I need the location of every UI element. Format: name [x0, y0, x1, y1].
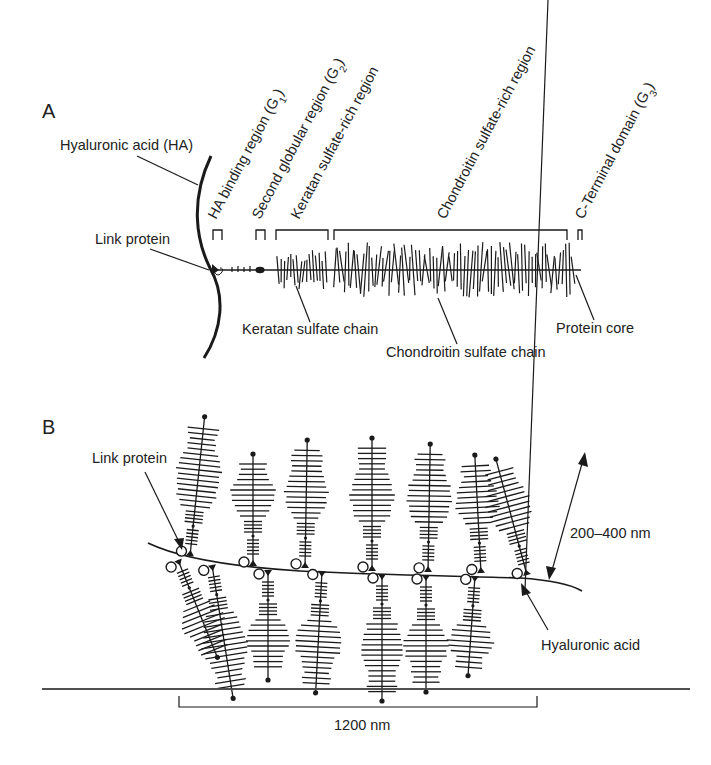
- chondroitin-chain: [399, 256, 401, 293]
- chondroitin-chain: [487, 249, 488, 292]
- chondroitin-chain: [528, 251, 529, 296]
- link-protein-circle: [414, 563, 424, 573]
- link-protein-b-label: Link protein: [92, 450, 167, 466]
- chondroitin-chain: [463, 256, 465, 296]
- keratan-chain-leader: [296, 286, 310, 322]
- chondroitin-chain: [369, 246, 370, 291]
- aggrecan-monomer: [283, 437, 330, 569]
- region-bracket: [334, 230, 567, 240]
- region-label: C-Terminal domain (G3): [572, 79, 662, 223]
- aggrecan-monomer: [405, 441, 453, 573]
- region-bracket: [213, 230, 222, 240]
- panel-b-letter: B: [42, 416, 55, 438]
- keratan-chain: [322, 261, 324, 289]
- link-protein-circle: [291, 559, 301, 569]
- link-protein-circle: [308, 569, 319, 580]
- length-range-label: 200–400 nm: [570, 525, 651, 541]
- chondroitin-chain: [404, 245, 409, 283]
- region-bracket: [578, 230, 582, 240]
- protein-core-label: Protein core: [556, 320, 634, 336]
- keratan-chain: [319, 253, 320, 281]
- keratan-chain: [299, 261, 302, 289]
- chondroitin-chain: [514, 252, 516, 284]
- chondroitin-chain: [569, 243, 570, 295]
- chondroitin-chain: [562, 250, 563, 284]
- chondroitin-chain: [415, 250, 417, 281]
- aggrecan-monomer: [189, 560, 257, 704]
- chondroitin-chain: [394, 244, 399, 285]
- chondroitin-chain: [402, 247, 405, 295]
- chondroitin-chain: [469, 251, 473, 298]
- keratan-chain: [296, 255, 298, 283]
- hyaluronic-acid-b-arrowhead: [521, 583, 531, 596]
- chondroitin-chain: [357, 254, 361, 293]
- link-protein-leader: [150, 249, 209, 270]
- chondroitin-chain: [555, 258, 557, 290]
- chondroitin-chain: [438, 246, 442, 286]
- hyaluronic-acid-strand: [197, 156, 220, 358]
- chondroitin-chain: [372, 258, 373, 286]
- span-scale-label: 1200 nm: [334, 717, 390, 733]
- interglobular-ticks: [232, 266, 250, 272]
- link-protein-circle: [198, 565, 209, 576]
- chondroitin-chain: [521, 243, 522, 290]
- region-bracket: [276, 230, 328, 240]
- keratan-chain-label: Keratan sulfate chain: [242, 321, 378, 337]
- chondroitin-chain: [558, 252, 560, 284]
- chondroitin-chain: [433, 256, 434, 288]
- link-protein-circle: [254, 569, 264, 579]
- chondroitin-chain: [419, 250, 420, 281]
- link-protein-circle: [165, 561, 178, 574]
- g2-globule: [256, 267, 265, 273]
- chondroitin-chain: [480, 242, 483, 291]
- region-label: HA binding region (G1): [205, 86, 291, 224]
- aggrecan-monomer: [293, 569, 345, 697]
- protein-core-leader: [576, 275, 594, 320]
- hyaluronic-acid-leader: [137, 156, 198, 185]
- region-label: Chondroitin sulfate-rich region: [434, 43, 539, 221]
- chondroitin-chain: [389, 251, 390, 296]
- chondroitin-chain: [500, 242, 503, 292]
- aggrecan-monomer: [349, 435, 395, 572]
- aggrecan-monomer: [361, 573, 402, 704]
- chondroitin-chain: [377, 246, 382, 285]
- link-protein-circle: [460, 574, 471, 585]
- chondroitin-chain: [551, 256, 555, 293]
- region-bracket: [256, 230, 265, 240]
- keratan-chain: [287, 257, 289, 280]
- aggrecan-monomer: [453, 451, 504, 575]
- keratan-chain: [302, 261, 305, 283]
- chondroitin-chain: [460, 244, 461, 290]
- link-protein-circle: [467, 564, 478, 575]
- chondroitin-chain-leader: [438, 298, 457, 344]
- keratan-chain: [284, 261, 285, 288]
- link-protein-circle: [368, 573, 378, 583]
- panel-a: A Hyaluronic acid (HA) Link protein HA b…: [42, 43, 661, 360]
- keratan-chain: [293, 259, 295, 285]
- chondroitin-chain: [518, 254, 520, 293]
- keratan-chain: [309, 254, 311, 280]
- chondroitin-chain: [375, 255, 377, 288]
- aggrecan-monomers: [157, 412, 549, 705]
- chondroitin-chain: [350, 250, 353, 288]
- hyaluronic-acid-b-leader: [525, 590, 548, 630]
- chondroitin-chain: [453, 253, 454, 280]
- keratan-chain: [315, 255, 317, 280]
- aggrecan-monomer: [246, 569, 290, 683]
- panel-a-letter: A: [42, 100, 56, 122]
- link-protein-b-arrow: [145, 472, 180, 544]
- keratan-chain: [325, 251, 327, 282]
- length-range-arrowhead-bottom: [546, 566, 556, 580]
- chondroitin-chain: [430, 248, 431, 282]
- hyaluronic-acid-b-label: Hyaluronic acid: [541, 637, 640, 653]
- chondroitin-chain: [391, 250, 394, 282]
- length-range-arrow: [551, 460, 583, 574]
- chondroitin-chain: [525, 245, 527, 283]
- link-protein-label: Link protein: [95, 231, 170, 247]
- chondroitin-chain: [494, 251, 496, 296]
- link-protein-circle: [358, 562, 368, 572]
- chondroitin-chain-label: Chondroitin sulfate chain: [386, 344, 546, 360]
- keratan-chain: [312, 250, 314, 282]
- chondroitin-chain: [360, 254, 364, 294]
- region-brackets: [213, 230, 582, 240]
